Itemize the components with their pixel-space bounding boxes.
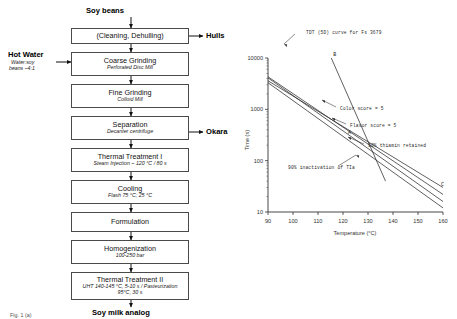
chart-annotations: TDT (5D) curve for Fs 3679Color score = …	[284, 30, 426, 170]
flow-step-homogenization: Homogenization 100-250 bar	[71, 240, 189, 264]
series-point-label: A	[348, 130, 351, 136]
flow-step-subtitle: 100-250 bar	[116, 253, 145, 259]
x-tick-label: 100	[288, 218, 297, 224]
flow-step-cooling: Cooling Flash 75 °C; 25 °C	[71, 180, 189, 204]
chart-series-line	[268, 81, 443, 188]
flow-output-label: Soy milk analog	[92, 308, 150, 317]
y-axis-ticks: 10100100010000	[247, 55, 268, 215]
flow-step-cleaning-dehulling: (Cleaning, Dehulling)	[71, 28, 189, 44]
x-tick-label: 90	[265, 218, 271, 224]
flow-step-subtitle: Perforated Disc Mill	[107, 65, 153, 71]
chart-series-lines: BCA	[268, 52, 444, 208]
y-tick-label: 10	[257, 209, 263, 215]
flow-step-subtitle-2: 95°C, 30 s	[118, 290, 143, 296]
process-flow-diagram: Soy beans Hulls Okara Hot Water Water:so…	[0, 0, 240, 319]
x-tick-label: 110	[314, 218, 323, 224]
x-axis-ticks: 90100110120130140150160	[265, 212, 448, 224]
flow-step-thermal-treatment-1: Thermal Treatment I Steam Injection ~ 12…	[71, 148, 189, 172]
flow-step-formulation: Formulation	[71, 212, 189, 232]
flow-step-subtitle: Steam Injection ~ 120 °C / 80 s	[93, 161, 166, 167]
chart-canvas: 10100100010000 90100110120130140150160 B…	[240, 0, 457, 319]
chart-series-line	[331, 58, 385, 181]
tdt-curve-chart: 10100100010000 90100110120130140150160 B…	[240, 0, 457, 319]
y-tick-label: 1000	[251, 106, 263, 112]
y-tick-label: 100	[254, 158, 263, 164]
flow-step-coarse-grinding: Coarse Grinding Perforated Disc Mill	[71, 52, 189, 76]
flow-step-subtitle: Colloid Mill	[117, 97, 143, 103]
x-tick-label: 140	[388, 218, 397, 224]
series-point-label: C	[441, 182, 444, 188]
flow-step-subtitle: Decanter centrifuge	[107, 129, 153, 135]
chart-annotation-label: Color score = 5	[340, 106, 384, 111]
chart-annotation-label: TDT (5D) curve for Fs 3679	[306, 30, 382, 35]
figure-caption: Fig. 1 (a)	[10, 312, 32, 318]
chart-annotation-leader	[284, 34, 295, 44]
x-tick-label: 160	[438, 218, 447, 224]
chart-annotation-arrow	[284, 44, 287, 47]
chart-annotation-label: 90% thiamin retained	[368, 143, 426, 148]
x-tick-label: 130	[363, 218, 372, 224]
flow-step-separation: Separation Decanter centrifuge	[71, 116, 189, 140]
x-axis-title: Temperature (°C)	[334, 230, 377, 236]
flow-step-title: Formulation	[111, 218, 149, 226]
y-tick-label: 10000	[247, 55, 263, 61]
chart-annotation-arrow	[356, 155, 359, 158]
flow-step-title: (Cleaning, Dehulling)	[96, 32, 163, 40]
chart-annotation-label: 90% inactivation of TIa	[288, 165, 355, 170]
flow-step-fine-grinding: Fine Grinding Colloid Mill	[71, 84, 189, 108]
chart-annotation-label: Flavor score = 5	[350, 123, 397, 128]
chart-annotation-arrow	[322, 100, 325, 103]
x-tick-label: 150	[413, 218, 422, 224]
flow-output-okara: Okara	[206, 127, 228, 136]
flow-output-hulls: Hulls	[206, 31, 225, 40]
series-point-label: B	[333, 52, 336, 58]
chart-series-line	[268, 77, 443, 195]
x-tick-label: 120	[338, 218, 347, 224]
flow-step-thermal-treatment-2: Thermal Treatment II UHT 140-145 °C, 5-1…	[71, 272, 189, 300]
flow-input-hot-water-sub2: beans ~4:1	[9, 65, 35, 71]
flow-step-subtitle: Flash 75 °C; 25 °C	[108, 193, 152, 199]
flow-input-label: Soy beans	[86, 6, 124, 15]
flow-input-hot-water: Hot Water	[8, 50, 44, 59]
y-axis-title: Time (s)	[244, 130, 250, 150]
chart-annotation-arrow	[348, 137, 351, 140]
